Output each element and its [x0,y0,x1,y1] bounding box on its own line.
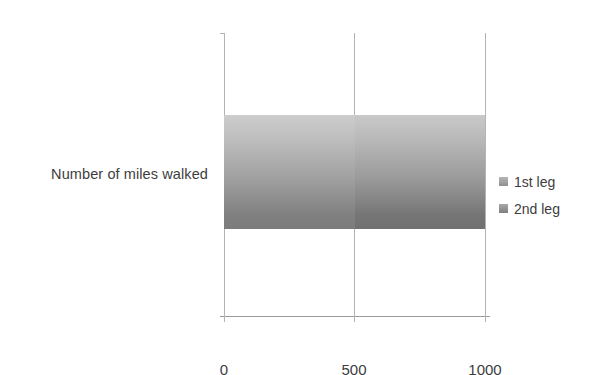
legend-item-1st-leg[interactable]: 1st leg [499,168,599,195]
bar-segment-2nd-leg[interactable] [355,115,486,229]
value-axis-baseline [220,316,490,317]
legend: 1st leg 2nd leg [499,168,599,222]
category-axis-label: Number of miles walked [8,166,208,182]
gridline-1000 [485,33,486,316]
axis-tick-1000 [485,316,486,322]
legend-swatch-icon [499,177,508,186]
legend-item-2nd-leg[interactable]: 2nd leg [499,195,599,222]
legend-swatch-icon [499,204,508,213]
legend-item-label: 2nd leg [514,201,560,217]
legend-item-label: 1st leg [514,174,555,190]
bar-stack [224,115,485,229]
axis-tick-500 [354,316,355,322]
axis-tick-label-500: 500 [314,361,394,375]
axis-tick-label-1000: 1000 [445,361,525,375]
axis-tick-label-0: 0 [184,361,264,375]
axis-tick-0 [224,316,225,322]
plot-area: 0 500 1000 [224,33,485,316]
bar-segment-1st-leg[interactable] [224,115,355,229]
bar-chart: Number of miles walked 0 500 1000 1st le… [0,0,604,375]
